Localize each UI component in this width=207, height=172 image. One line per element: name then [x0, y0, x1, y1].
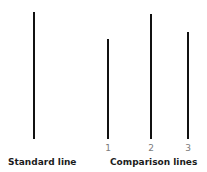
comparison-line-2-number: 2 — [144, 143, 158, 154]
comparison-line-1 — [107, 39, 109, 139]
comparison-line-1-number: 1 — [101, 143, 115, 154]
standard-line-caption: Standard line — [8, 157, 76, 168]
comparison-lines-caption: Comparison lines — [110, 157, 197, 168]
line-judgment-figure: Standard line 1 2 3 Comparison lines — [0, 0, 207, 172]
comparison-line-3 — [187, 32, 189, 139]
standard-line — [33, 12, 35, 139]
comparison-line-2 — [150, 14, 152, 139]
comparison-line-3-number: 3 — [181, 143, 195, 154]
